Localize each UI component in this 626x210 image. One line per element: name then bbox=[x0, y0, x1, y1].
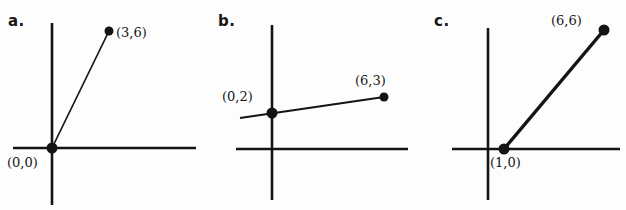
endpoint bbox=[599, 25, 610, 36]
panel-letter-c: c. bbox=[434, 14, 450, 29]
origin-point bbox=[47, 143, 58, 154]
coordinate-planes-svg bbox=[0, 0, 626, 210]
panel-a bbox=[13, 23, 196, 205]
point-label-63-b: (6,3) bbox=[355, 74, 386, 87]
line-segment bbox=[240, 97, 384, 118]
endpoint bbox=[105, 27, 114, 36]
x-intercept-point bbox=[499, 144, 510, 155]
line-segment-figure: a.(0,0)(3,6)b.(0,2)(6,3)c.(1,0)(6,6) bbox=[0, 0, 626, 210]
point-label-00-a: (0,0) bbox=[7, 156, 38, 169]
point-label-66-c: (6,6) bbox=[551, 14, 582, 27]
panel-letter-b: b. bbox=[218, 14, 235, 29]
panel-letter-a: a. bbox=[8, 14, 25, 29]
point-label-10-c: (1,0) bbox=[490, 156, 521, 169]
y-intercept-point bbox=[267, 108, 278, 119]
panel-b bbox=[236, 25, 408, 200]
endpoint bbox=[380, 93, 389, 102]
line-segment bbox=[52, 31, 109, 148]
point-label-02-b: (0,2) bbox=[222, 90, 253, 103]
point-label-36-a: (3,6) bbox=[116, 26, 147, 39]
panel-c bbox=[452, 25, 620, 201]
line-segment bbox=[504, 30, 604, 149]
